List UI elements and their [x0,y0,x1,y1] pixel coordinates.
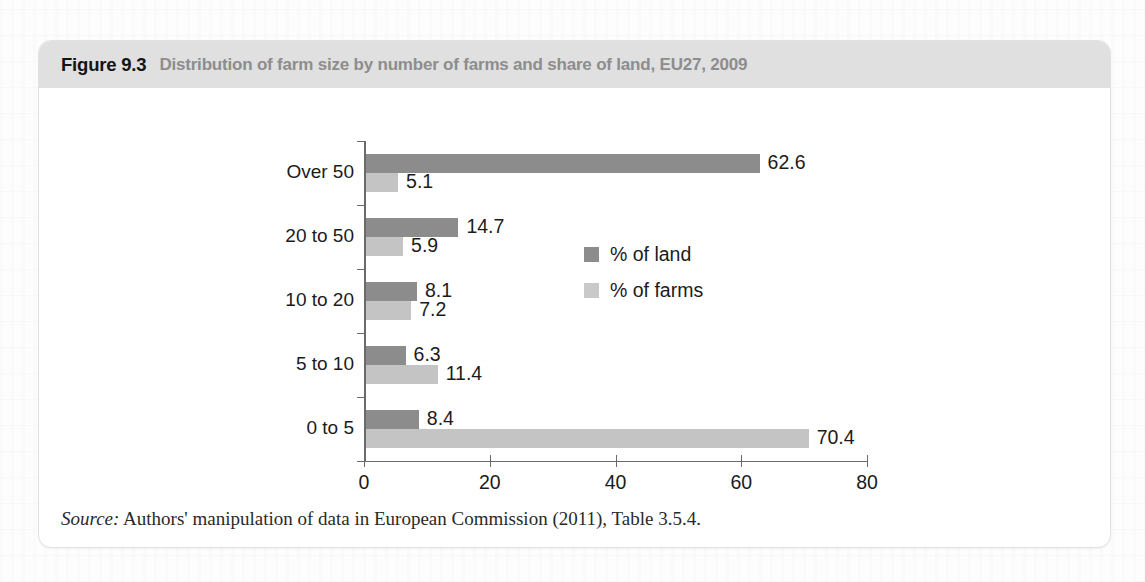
y-axis-tick [357,205,366,206]
figure-page: Figure 9.3 Distribution of farm size by … [0,0,1145,582]
bar-value-label: 7.2 [419,298,446,321]
bar-farms [366,237,403,256]
x-axis-tick-label: 20 [479,471,501,494]
x-axis-tick [490,455,491,467]
legend-swatch-land-icon [584,247,599,262]
bar-value-label: 6.3 [414,343,441,366]
figure-number: Figure 9.3 [61,54,146,76]
x-axis-tick [616,455,617,467]
bar-land [366,410,419,429]
x-axis-tick [364,455,365,467]
x-axis-tick-label: 0 [359,471,370,494]
bar-value-label: 5.9 [411,234,438,257]
source-label: Source: [61,508,119,529]
bar-value-label: 5.1 [406,170,433,193]
bar-land [366,282,417,301]
y-axis-tick [357,397,366,398]
figure-caption: Distribution of farm size by number of f… [159,55,747,75]
x-axis-tick [741,455,742,467]
figure-source: Source: Authors' manipulation of data in… [61,508,701,530]
category-label: 0 to 5 [194,417,354,439]
legend-label-land: % of land [610,243,691,266]
bar-value-label: 8.4 [427,407,454,430]
figure-box: Figure 9.3 Distribution of farm size by … [38,40,1111,548]
bar-farms [366,301,411,320]
bar-farms [366,173,398,192]
chart-plot-area: 020406080 0 to 55 to 1010 to 2020 to 50O… [39,88,1110,503]
bar-value-label: 62.6 [768,151,806,174]
figure-header: Figure 9.3 Distribution of farm size by … [39,41,1110,88]
y-axis-tick [357,333,366,334]
y-axis-tick [357,141,366,142]
category-label: 20 to 50 [194,225,354,247]
x-axis-tick [867,455,868,467]
source-text: Authors' manipulation of data in Europea… [123,508,701,529]
legend-label-farms: % of farms [610,279,703,302]
legend-item-land: % of land [584,240,703,269]
legend-item-farms: % of farms [584,276,703,305]
bar-value-label: 11.4 [446,362,483,385]
bar-farms [366,429,809,448]
y-axis-tick [357,269,366,270]
x-axis-tick-label: 60 [730,471,752,494]
legend-swatch-farms-icon [584,283,599,298]
bar-farms [366,365,438,384]
bar-value-label: 14.7 [466,215,504,238]
category-label: 10 to 20 [194,289,354,311]
bar-land [366,346,406,365]
x-axis-tick-label: 80 [856,471,878,494]
bar-value-label: 70.4 [817,426,855,449]
chart-legend: % of land % of farms [584,240,703,312]
category-label: 5 to 10 [194,353,354,375]
x-axis-tick-label: 40 [605,471,627,494]
category-label: Over 50 [194,161,354,183]
